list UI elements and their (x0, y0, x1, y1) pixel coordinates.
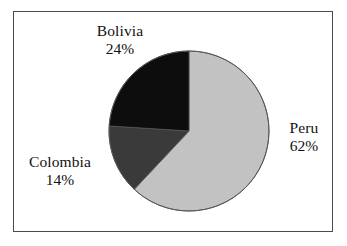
slice-label-bolivia: Bolivia 24% (76, 22, 164, 58)
slice-label-colombia-name: Colombia (14, 153, 106, 171)
pie-slice-group (109, 51, 269, 211)
slice-label-peru-value: 62% (276, 137, 332, 155)
slice-label-colombia-value: 14% (14, 171, 106, 189)
slice-label-colombia: Colombia 14% (14, 153, 106, 189)
pie-chart-figure: Bolivia 24% Peru 62% Colombia 14% (0, 0, 347, 246)
slice-label-bolivia-value: 24% (76, 40, 164, 58)
slice-label-peru: Peru 62% (276, 119, 332, 155)
pie-slice-bolivia (109, 51, 189, 131)
slice-label-peru-name: Peru (276, 119, 332, 137)
slice-label-bolivia-name: Bolivia (76, 22, 164, 40)
